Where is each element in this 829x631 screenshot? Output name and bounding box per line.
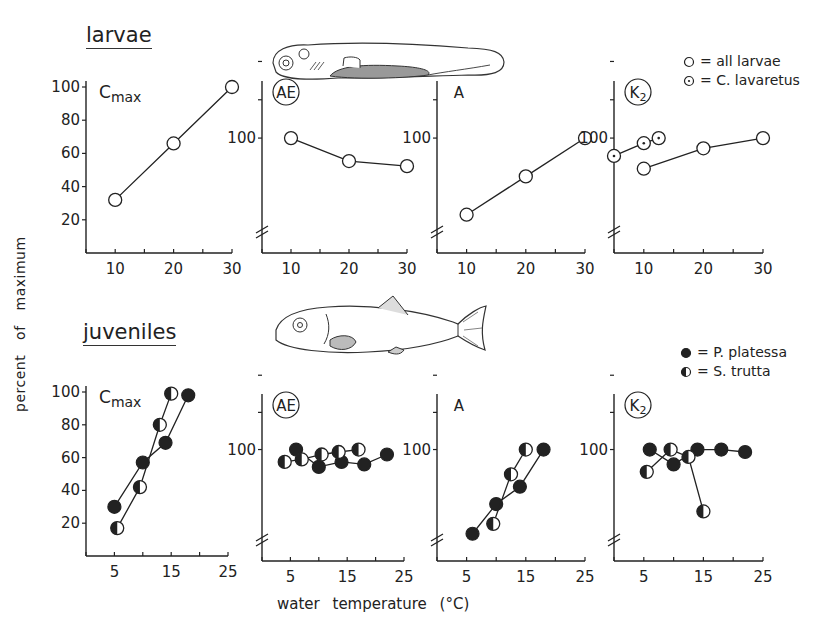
- x-tick-label: 15: [162, 563, 181, 581]
- data-point: [401, 160, 414, 173]
- panel-juveniles-ae: 51525100AE: [227, 375, 413, 586]
- y-tick-label: 60: [61, 449, 80, 467]
- data-point: [519, 170, 532, 183]
- data-point: [739, 446, 752, 459]
- x-tick-label: 30: [575, 260, 594, 278]
- y-tick-label: 100: [227, 129, 256, 147]
- legend-label: = all larvae: [700, 52, 781, 71]
- larva-fish-drawing: [268, 38, 508, 93]
- data-point: [182, 389, 195, 402]
- x-tick-label: 30: [222, 260, 241, 278]
- juveniles-heading: juveniles: [83, 322, 176, 346]
- legend-item-s-trutta: = S. trutta: [680, 362, 787, 381]
- data-point: [715, 443, 728, 456]
- x-tick-label: 20: [694, 260, 713, 278]
- legend-label: = S. trutta: [697, 362, 771, 381]
- legend-item-all-larvae: = all larvae: [683, 52, 800, 71]
- series-line: [473, 450, 544, 534]
- panel-larvae-ae: 102030100AE: [227, 61, 416, 278]
- y-tick-label: 20: [61, 514, 80, 532]
- x-tick-label: 5: [110, 563, 120, 581]
- panel-title: K2: [630, 397, 647, 417]
- y-tick-label: 80: [61, 416, 80, 434]
- x-tick-label: 15: [516, 568, 535, 586]
- legend-item-c-lavaretus: = C. lavaretus: [683, 71, 800, 90]
- data-point: [643, 443, 656, 456]
- data-point: [343, 155, 356, 168]
- legend-item-p-platessa: = P. platessa: [680, 343, 787, 362]
- data-point: [460, 208, 473, 221]
- y-tick-label: 20: [61, 211, 80, 229]
- data-point: [108, 500, 121, 513]
- data-point: [537, 443, 550, 456]
- x-tick-label: 15: [694, 568, 713, 586]
- panel-larvae-cmax: 10203020406080100Cmax: [51, 78, 241, 278]
- x-tick-label: 20: [164, 260, 183, 278]
- data-point: [167, 137, 180, 150]
- y-tick-label: 100: [227, 441, 256, 459]
- panel-larvae-k2: 102030100K2: [579, 61, 772, 278]
- data-point: [380, 448, 393, 461]
- y-tick-label: 100: [51, 78, 80, 96]
- x-tick-label: 25: [218, 563, 237, 581]
- data-point: [667, 458, 680, 471]
- larvae-legend: = all larvae = C. lavaretus: [683, 52, 800, 90]
- x-tick-label: 15: [338, 568, 357, 586]
- panel-larvae-a: 102030100A: [402, 61, 594, 278]
- legend-label: = C. lavaretus: [700, 71, 800, 90]
- juveniles-legend: = P. platessa = S. trutta: [680, 343, 787, 381]
- x-tick-label: 10: [106, 260, 125, 278]
- filled-circle-icon: [680, 347, 692, 359]
- y-tick-label: 100: [51, 383, 80, 401]
- panel-title: Cmax: [99, 387, 141, 410]
- x-tick-label: 5: [286, 568, 296, 586]
- dotted-circle-icon: [683, 75, 695, 87]
- y-tick-label: 60: [61, 144, 80, 162]
- panel-title: K2: [630, 84, 647, 104]
- x-axis-label: water temperature (°C): [277, 595, 469, 613]
- x-tick-label: 10: [457, 260, 476, 278]
- open-circle-icon: [683, 56, 695, 68]
- data-point: [757, 132, 770, 145]
- y-tick-label: 40: [61, 178, 80, 196]
- data-point: [637, 162, 650, 175]
- panel-title: AE: [276, 397, 296, 415]
- x-tick-label: 30: [397, 260, 416, 278]
- data-point: [312, 460, 325, 473]
- data-point: [513, 480, 526, 493]
- y-tick-label: 40: [61, 481, 80, 499]
- legend-label: = P. platessa: [697, 343, 787, 362]
- panel-title: Cmax: [99, 82, 141, 105]
- y-tick-label: 100: [402, 441, 431, 459]
- y-axis-label: percent of maximum: [12, 236, 28, 412]
- data-point: [697, 142, 710, 155]
- data-point: [226, 81, 239, 94]
- y-tick-label: 80: [61, 111, 80, 129]
- series-line: [614, 138, 659, 156]
- panel-juveniles-k2: 51525100K2: [579, 375, 772, 586]
- x-tick-label: 20: [516, 260, 535, 278]
- panel-juveniles-cmax: 5152520406080100Cmax: [51, 383, 237, 581]
- data-point: [466, 527, 479, 540]
- data-point: [285, 132, 298, 145]
- x-tick-label: 5: [462, 568, 472, 586]
- juvenile-fish-drawing: [268, 292, 493, 364]
- panel-juveniles-a: 51525100A: [402, 375, 594, 586]
- x-tick-label: 10: [281, 260, 300, 278]
- data-point: [109, 193, 122, 206]
- y-tick-label: 100: [579, 441, 608, 459]
- x-tick-label: 25: [753, 568, 772, 586]
- data-point: [358, 458, 371, 471]
- data-point: [159, 436, 172, 449]
- larvae-heading: larvae: [86, 25, 152, 49]
- x-tick-label: 25: [394, 568, 413, 586]
- y-tick-label: 100: [402, 129, 431, 147]
- x-tick-label: 20: [339, 260, 358, 278]
- x-tick-label: 5: [639, 568, 649, 586]
- half-filled-circle-icon: [680, 366, 692, 378]
- x-tick-label: 10: [634, 260, 653, 278]
- x-tick-label: 25: [575, 568, 594, 586]
- y-tick-label: 100: [579, 129, 608, 147]
- panel-title: A: [454, 397, 465, 415]
- x-tick-label: 30: [753, 260, 772, 278]
